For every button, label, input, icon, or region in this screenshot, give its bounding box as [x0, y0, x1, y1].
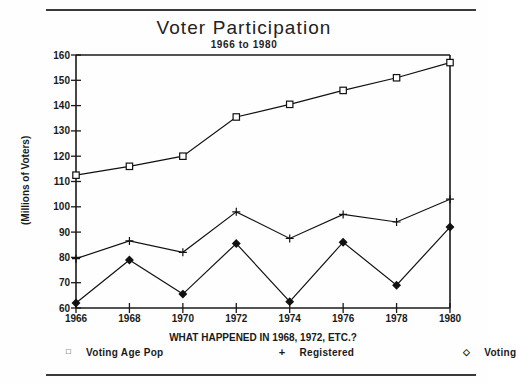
y-axis-title: (Millions of Voters)	[20, 136, 31, 225]
x-tick-label: 1966	[65, 313, 88, 324]
square-data-point	[287, 101, 293, 107]
plus-data-point	[72, 255, 80, 263]
series-group	[72, 59, 454, 306]
series-registered	[72, 195, 454, 262]
x-tick-label: 1968	[118, 313, 141, 324]
square-data-point	[340, 87, 346, 93]
square-data-point	[447, 59, 453, 65]
x-axis-title: WHAT HAPPENED IN 1968, 1972, ETC.?	[169, 332, 357, 343]
y-tick-label: 130	[53, 125, 70, 136]
y-tick-label: 100	[53, 201, 70, 212]
legend-label-voting: Voting	[484, 347, 516, 358]
chart-legend: □ Voting Age Pop + Registered ◇ Voting	[46, 344, 476, 360]
square-data-point	[233, 114, 239, 120]
series-voting	[72, 223, 453, 306]
y-tick-label: 120	[53, 151, 70, 162]
y-tick-label: 110	[54, 176, 71, 187]
x-tick-label: 1970	[172, 313, 195, 324]
plus-data-point	[393, 218, 401, 226]
square-data-point	[180, 153, 186, 159]
x-tick-label: 1976	[332, 313, 355, 324]
series-polyline	[76, 199, 450, 258]
plus-marker-icon: +	[276, 347, 289, 358]
square-data-point	[393, 75, 399, 81]
legend-item-voting[interactable]: ◇ Voting	[460, 347, 516, 358]
x-axis-tick-labels: 19661968197019721974197619781980	[65, 313, 462, 324]
plus-data-point	[125, 237, 133, 245]
diamond-marker-icon: ◇	[460, 348, 473, 357]
y-tick-label: 70	[59, 277, 71, 288]
y-tick-label: 160	[53, 50, 70, 61]
x-tick-label: 1978	[385, 313, 408, 324]
x-tick-label: 1972	[225, 313, 248, 324]
plus-data-point	[339, 210, 347, 218]
y-axis-tick-labels: 60708090100110120130140150160	[53, 50, 70, 314]
legend-item-registered[interactable]: + Registered	[276, 347, 355, 358]
square-data-point	[126, 163, 132, 169]
legend-item-voting-age-pop[interactable]: □ Voting Age Pop	[62, 347, 164, 358]
plus-data-point	[286, 234, 294, 242]
x-tick-label: 1974	[279, 313, 302, 324]
y-tick-label: 150	[53, 75, 70, 86]
square-data-point	[73, 172, 79, 178]
y-tick-label: 140	[53, 100, 70, 111]
y-tick-label: 60	[59, 303, 71, 314]
y-tick-label: 80	[59, 252, 71, 263]
y-tick-label: 90	[59, 227, 71, 238]
legend-label-voting-age-pop: Voting Age Pop	[86, 347, 164, 358]
x-tick-label: 1980	[439, 313, 462, 324]
square-marker-icon: □	[62, 348, 75, 356]
legend-label-registered: Registered	[300, 347, 355, 358]
series-voting-age-pop	[73, 59, 453, 178]
series-polyline	[76, 227, 450, 303]
plus-data-point	[446, 195, 454, 203]
